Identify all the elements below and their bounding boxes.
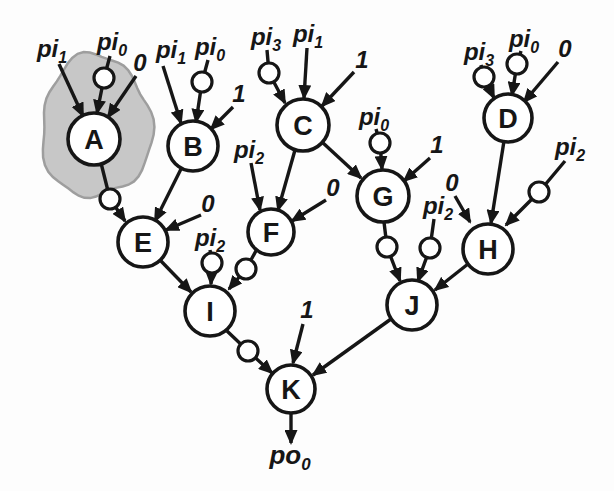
logic-dag-diagram: ABCDEFGHIJKpi1pi00pi1pi01pi3pi11pi3pi000… [0, 0, 614, 491]
input-label-a-pi1: pi1 [36, 35, 67, 66]
input-label-c-pi3: pi3 [250, 23, 281, 54]
input-label-g-c1: 1 [430, 131, 443, 158]
input-label-d-c0: 0 [558, 35, 572, 62]
input-label-c-pi1: pi1 [292, 20, 323, 51]
input-label-f-pi2: pi2 [233, 136, 264, 167]
input-label-d-pi0: pi0 [508, 25, 539, 56]
edge-d-to-h [491, 141, 504, 223]
edge-0-to-h [455, 196, 470, 222]
node-F: F [248, 209, 294, 255]
edge-1-to-c [322, 72, 354, 106]
node-C: C [277, 99, 329, 151]
inverter-bubble-pi3-to-d [474, 67, 494, 87]
node-H-label: H [478, 235, 498, 265]
inverter-bubble-pi3-to-c [259, 63, 279, 83]
node-A-label: A [84, 125, 104, 155]
node-J-label: J [404, 291, 419, 321]
input-label-k-c1: 1 [300, 296, 313, 323]
edge-pi1-to-b [163, 66, 181, 123]
input-label-i-pi2: pi2 [194, 224, 225, 255]
node-K: K [267, 365, 315, 413]
edge-1-to-b [211, 107, 233, 129]
node-I-label: I [206, 297, 214, 327]
edge-h-to-j [435, 264, 468, 290]
node-F-label: F [263, 218, 280, 248]
input-label-h-c0: 0 [445, 169, 459, 196]
input-label-f-c0: 0 [326, 174, 340, 201]
node-K-label: K [281, 375, 301, 405]
inverter-bubble-f-to-i [236, 259, 256, 279]
input-label-a-c0: 0 [133, 49, 147, 76]
node-E-label: E [134, 228, 152, 258]
node-I: I [185, 286, 235, 336]
inverter-bubble-pi0-to-b [192, 72, 212, 92]
inverter-bubble-pi2-to-i [202, 253, 222, 273]
node-A: A [68, 113, 120, 165]
node-G-label: G [372, 182, 393, 212]
input-label-b-c1: 1 [232, 80, 245, 107]
edge-b-to-e [155, 169, 181, 221]
input-label-j-pi2: pi2 [422, 192, 453, 223]
figure-canvas: ABCDEFGHIJKpi1pi00pi1pi01pi3pi11pi3pi000… [0, 0, 614, 491]
input-label-c-c1: 1 [355, 46, 368, 73]
edge-c-to-f [278, 150, 295, 210]
inverter-bubble-pi2-to-h [529, 182, 549, 202]
input-label-d-pi3: pi3 [463, 38, 494, 69]
node-G: G [357, 170, 409, 222]
input-label-a-pi0: pi0 [96, 28, 127, 59]
edge-1-to-k [293, 324, 303, 363]
input-label-e-c0: 0 [201, 190, 215, 217]
node-D: D [484, 94, 532, 142]
edge-c-to-g [322, 142, 361, 178]
inverter-bubble-pi0-to-g [370, 133, 390, 153]
inverter-bubble-i-to-k [238, 341, 258, 361]
input-label-g-pi0: pi0 [358, 103, 389, 134]
inverter-bubble-g-to-j [377, 237, 397, 257]
edge-e-to-i [160, 260, 191, 292]
node-E: E [118, 217, 168, 267]
inverter-bubble-pi0-to-d [507, 54, 527, 74]
node-J: J [387, 280, 437, 330]
edge-j-to-k [313, 319, 391, 375]
edge-0-to-d [524, 62, 558, 102]
inverter-bubble-pi2-to-j [420, 238, 440, 258]
node-D-label: D [498, 104, 518, 134]
edge-pi2-to-f [251, 163, 260, 210]
input-label-h-pi2: pi2 [554, 133, 585, 164]
node-B-label: B [183, 132, 203, 162]
edge-pi1-to-c [304, 48, 307, 98]
edge-0-to-f [292, 200, 326, 221]
input-label-b-pi1: pi1 [155, 36, 186, 67]
inverter-bubble-pi0-to-a [94, 68, 114, 88]
node-B: B [168, 121, 218, 171]
inverter-bubble-a-to-e [100, 189, 120, 209]
edge-1-to-g [404, 158, 430, 181]
node-H: H [463, 224, 513, 274]
node-C-label: C [293, 111, 313, 141]
input-label-b-pi0: pi0 [194, 33, 225, 64]
output-label-po0: po0 [268, 440, 311, 474]
